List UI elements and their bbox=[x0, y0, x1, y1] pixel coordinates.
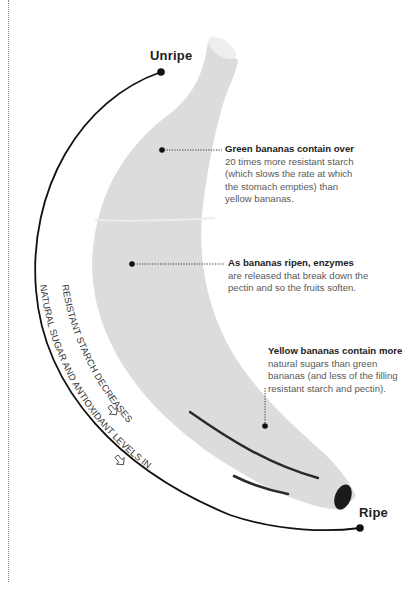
unripe-dot bbox=[157, 68, 165, 76]
annotation-yellow-bananas: Yellow bananas contain more natural suga… bbox=[268, 345, 413, 395]
annotation-green-bananas: Green bananas contain over 20 times more… bbox=[225, 143, 410, 206]
annotation-lead: Yellow bananas contain more bbox=[268, 345, 413, 358]
ripe-label: Ripe bbox=[359, 505, 388, 520]
hand-drawn-arrow-icon bbox=[113, 453, 128, 468]
ripe-dot bbox=[356, 524, 364, 532]
annotation-lead: Green bananas contain over bbox=[225, 143, 410, 156]
annotation-enzymes: As bananas ripen, enzymes are released t… bbox=[228, 257, 413, 295]
unripe-label: Unripe bbox=[150, 48, 192, 63]
annotation-lead: As bananas ripen, enzymes bbox=[228, 257, 413, 270]
